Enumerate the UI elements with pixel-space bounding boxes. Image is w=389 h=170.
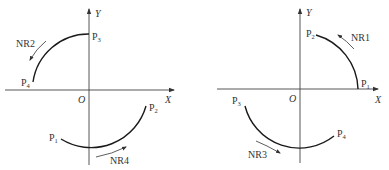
origin-label: O (78, 94, 85, 105)
y-axis-label: Y (306, 7, 313, 18)
x-axis-label: X (164, 94, 172, 105)
point-label-p1: P1 (49, 132, 58, 144)
arc-nr4 (61, 106, 146, 148)
nr3-label: NR3 (248, 149, 267, 160)
point-label-p1: P1 (361, 78, 370, 90)
point-label-p4: P4 (21, 77, 31, 89)
origin-label: O (289, 93, 296, 104)
x-axis-label: X (374, 94, 382, 105)
nr2-label: NR2 (16, 38, 35, 49)
point-label-p4: P4 (337, 128, 347, 140)
point-label-p2: P2 (306, 28, 315, 40)
left-panel: Y X O NR2 NR4 P3 P4 P1 P2 (5, 8, 174, 166)
nr1-label: NR1 (351, 32, 370, 43)
nr4-label: NR4 (110, 155, 129, 166)
arc-nr1 (316, 35, 358, 89)
point-label-p3: P3 (232, 95, 241, 107)
right-panel: Y X O NR1 NR3 P2 P1 P3 P4 (217, 7, 382, 163)
point-label-p2: P2 (149, 102, 158, 114)
arc-nr2 (33, 34, 89, 82)
point-label-p3: P3 (92, 31, 101, 43)
y-axis-label: Y (95, 8, 102, 19)
diagram-canvas: Y X O NR2 NR4 P3 P4 P1 P2 Y X O NR1 (0, 0, 389, 170)
